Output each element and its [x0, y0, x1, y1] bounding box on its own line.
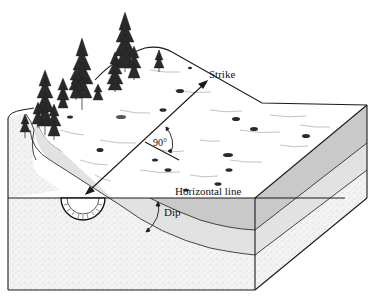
dip-label: Dip — [164, 206, 181, 218]
strike-dip-diagram: Strike 90° Horizontal line Dip — [0, 0, 372, 300]
horizontal-line-label: Horizontal line — [175, 185, 241, 197]
strike-label: Strike — [209, 68, 235, 80]
right-angle-label: 90° — [153, 137, 167, 148]
